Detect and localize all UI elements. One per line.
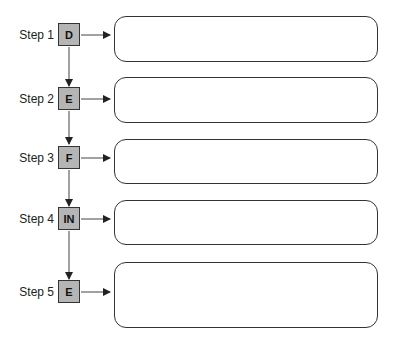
step-3-letter-box: F (58, 146, 80, 169)
step-5-answer-box[interactable] (114, 262, 378, 328)
step-4-label: Step 4 (2, 212, 54, 226)
step-diagram: Step 1 D Step 2 E Step 3 F Step 4 IN Ste… (0, 0, 394, 340)
step-4-letter-box: IN (58, 207, 80, 230)
step-5-letter-box: E (58, 280, 80, 303)
step-3-answer-box[interactable] (114, 139, 378, 184)
step-1-label: Step 1 (2, 28, 54, 42)
step-2-answer-box[interactable] (114, 77, 378, 123)
step-3-label: Step 3 (2, 151, 54, 165)
step-5-label: Step 5 (2, 285, 54, 299)
step-1-answer-box[interactable] (114, 16, 378, 62)
step-2-label: Step 2 (2, 92, 54, 106)
step-1-letter-box: D (58, 23, 80, 46)
step-2-letter-box: E (58, 87, 80, 110)
step-4-answer-box[interactable] (114, 200, 378, 245)
